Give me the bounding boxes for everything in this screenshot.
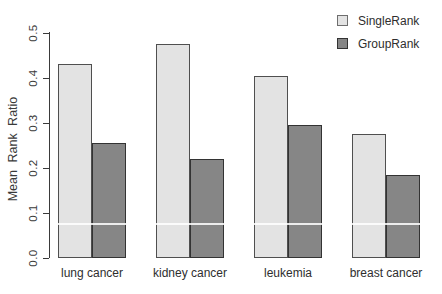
bar-singlerank-lung-cancer <box>58 64 92 258</box>
y-tick-0.1 <box>43 213 49 214</box>
bar-grouprank-kidney-cancer <box>190 159 224 258</box>
y-tick-label-0.4: 0.4 <box>27 69 39 87</box>
legend-label-grouprank: GroupRank <box>358 37 419 51</box>
legend-swatch-grouprank <box>337 38 348 49</box>
y-tick-label-0.1: 0.1 <box>27 204 39 222</box>
category-label-breast-cancer: breast cancer <box>350 266 423 280</box>
legend-swatch-singlerank <box>337 15 348 26</box>
y-tick-label-0.2: 0.2 <box>27 159 39 177</box>
bar-grouprank-breast-cancer <box>386 175 420 258</box>
category-label-kidney-cancer: kidney cancer <box>153 266 227 280</box>
grouped-bar-chart: Mean Rank Ratio 0.00.10.20.30.40.5 lung … <box>0 0 442 294</box>
y-tick-0.2 <box>43 168 49 169</box>
scan-artifact-line <box>50 223 436 225</box>
y-tick-0.5 <box>43 33 49 34</box>
y-axis-title: Mean Rank Ratio <box>6 97 20 202</box>
y-tick-0.4 <box>43 78 49 79</box>
y-tick-0.0 <box>43 258 49 259</box>
y-tick-0.3 <box>43 123 49 124</box>
bar-grouprank-lung-cancer <box>92 143 126 258</box>
y-tick-label-0.3: 0.3 <box>27 114 39 132</box>
y-tick-label-0.5: 0.5 <box>27 24 39 42</box>
category-label-leukemia: leukemia <box>264 266 312 280</box>
bar-singlerank-kidney-cancer <box>156 44 190 258</box>
bar-singlerank-breast-cancer <box>352 134 386 258</box>
y-tick-label-0.0: 0.0 <box>27 249 39 267</box>
bar-singlerank-leukemia <box>254 76 288 258</box>
category-label-lung-cancer: lung cancer <box>61 266 123 280</box>
bar-grouprank-leukemia <box>288 125 322 258</box>
legend-label-singlerank: SingleRank <box>358 14 419 28</box>
